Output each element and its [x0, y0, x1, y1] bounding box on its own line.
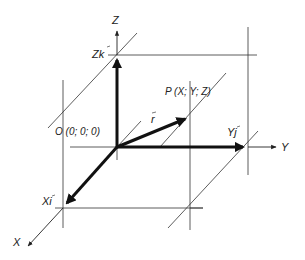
vector-overbar-icons [52, 46, 240, 196]
label-xi: Xi [41, 195, 52, 207]
label-x-axis: X [12, 236, 21, 248]
label-yj: Yj [227, 126, 237, 138]
label-z-axis: Z [111, 14, 120, 26]
label-origin: O (0; 0; 0) [55, 126, 100, 137]
label-r: r [151, 113, 156, 125]
xi-vector [67, 147, 117, 203]
axes [28, 31, 276, 246]
label-y-axis: Y [281, 141, 289, 153]
labels: Z Y X Zk Yj Xi r P (X; Y; Z) O (0; 0; 0) [12, 14, 289, 248]
x-axis [28, 208, 63, 246]
label-point-p: P (X; Y; Z) [165, 86, 211, 97]
label-zk: Zk [91, 48, 105, 60]
coordinate-diagram: Z Y X Zk Yj Xi r P (X; Y; Z) O (0; 0; 0) [0, 0, 305, 260]
